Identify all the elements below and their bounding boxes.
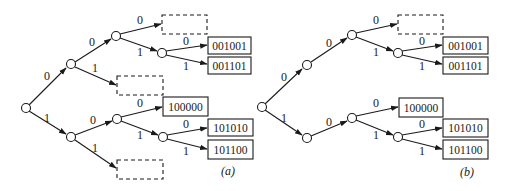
edge-label: 1 — [183, 144, 189, 158]
edge-label: 0 — [183, 117, 189, 131]
edge-label: 0 — [419, 34, 425, 48]
edge-label: 0 — [89, 35, 95, 49]
panel-caption-a: (a) — [221, 164, 235, 178]
empty-leaf-000 — [398, 15, 443, 34]
trie-node-1 — [67, 133, 76, 142]
trie-node-10 — [348, 114, 357, 123]
edge-label: 1 — [419, 59, 425, 73]
panel-caption-b: (b) — [460, 165, 474, 179]
trie-node-001 — [158, 49, 167, 58]
edge-label: 0 — [373, 13, 379, 27]
trie-node-root — [22, 104, 31, 113]
edge-label: 1 — [137, 45, 143, 59]
trie-node-1 — [303, 134, 312, 143]
trie-node-101 — [394, 133, 403, 142]
trie-node-0 — [67, 60, 76, 69]
edge-label: 0 — [281, 70, 287, 84]
trie-node-0 — [303, 61, 312, 70]
trie-node-00 — [348, 31, 357, 40]
leaf-code: 101010 — [448, 122, 483, 134]
edge-label: 1 — [44, 111, 50, 125]
edge-label: 0 — [326, 36, 332, 50]
trie-figure: 0 1 0 1 0 1 0 1 0 1 0 1 0 1 001001 00110… — [0, 0, 510, 191]
leaf-code: 001001 — [448, 40, 483, 52]
leaf-code: 001001 — [212, 40, 247, 52]
trie-node-00 — [112, 32, 121, 41]
edge-label: 1 — [92, 141, 98, 155]
edge-label: 0 — [137, 96, 143, 110]
empty-leaf-01 — [117, 76, 163, 95]
edge-label: 0 — [373, 96, 379, 110]
panel-a: 0 1 0 1 0 1 0 1 0 1 0 1 0 1 001001 00110… — [22, 13, 254, 179]
leaf-code: 001101 — [448, 60, 482, 72]
edge-label: 0 — [183, 34, 189, 48]
edge-label: 1 — [183, 59, 189, 73]
empty-leaf-11 — [117, 160, 163, 179]
edge-label: 1 — [92, 61, 98, 75]
leaf-code: 101100 — [213, 144, 247, 156]
edge-label: 0 — [137, 13, 143, 27]
edge-label: 1 — [281, 111, 287, 125]
trie-node-10 — [113, 115, 122, 124]
edge-label: 1 — [373, 45, 379, 59]
leaf-code: 100000 — [404, 102, 439, 114]
edge-label: 1 — [419, 144, 425, 158]
edge-label: 0 — [326, 115, 332, 129]
panel-b: 0 1 0 0 1 0 1 0 0 1 0 1 001001 001101 10… — [258, 13, 489, 179]
edge-label: 0 — [44, 69, 50, 83]
leaf-code: 001101 — [212, 60, 246, 72]
edge-label: 1 — [373, 128, 379, 142]
leaf-code: 101010 — [213, 122, 248, 134]
trie-node-root — [258, 103, 267, 112]
edge-label: 1 — [137, 128, 143, 142]
leaf-code: 100000 — [168, 101, 203, 113]
edge-label: 0 — [90, 113, 96, 127]
edge-label: 0 — [419, 117, 425, 131]
empty-leaf-000 — [162, 15, 207, 34]
leaf-code: 101100 — [448, 144, 482, 156]
trie-node-001 — [394, 49, 403, 58]
trie-node-101 — [159, 133, 168, 142]
